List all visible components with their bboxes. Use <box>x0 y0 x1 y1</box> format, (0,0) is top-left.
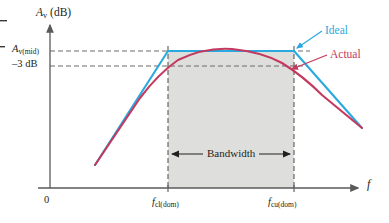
frequency-response-figure: Av (dB) f Av(mid) –3 dB 0 fcl(dom) fcu(d… <box>0 0 389 223</box>
midband-gain-label: Av(mid) <box>12 44 39 55</box>
crop-edge-marks <box>0 20 7 47</box>
lower-critical-frequency-label: fcl(dom) <box>152 197 179 208</box>
upper-critical-frequency-subscript: cu(dom) <box>271 200 297 209</box>
y-axis-title: Av (dB) <box>36 7 71 20</box>
y-axis-title-symbol: A <box>36 6 43 18</box>
legend-item-ideal: Ideal <box>325 25 348 37</box>
bandwidth-label: Bandwidth <box>203 148 259 159</box>
lower-critical-frequency-subscript: cl(dom) <box>155 200 179 209</box>
x-axis-title: f <box>367 178 370 190</box>
midband-gain-subscript: v(mid) <box>18 47 39 56</box>
origin-label: 0 <box>44 195 49 206</box>
y-axis-title-unit: (dB) <box>47 6 71 18</box>
ideal-leader-line <box>297 31 322 48</box>
legend-item-actual: Actual <box>330 49 361 61</box>
upper-critical-frequency-label: fcu(dom) <box>268 197 297 208</box>
bandwidth-shaded-region <box>168 51 294 188</box>
minus-three-db-label: –3 dB <box>12 59 37 70</box>
actual-leader-line <box>292 55 327 69</box>
x-axis-title-symbol: f <box>367 177 370 191</box>
